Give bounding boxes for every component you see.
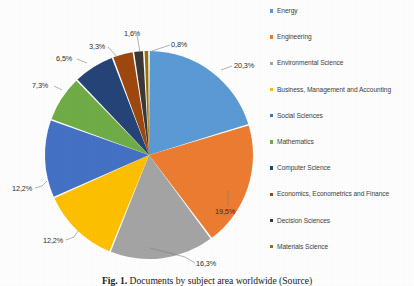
data-label-decision-sciences: 1,6% — [124, 29, 140, 38]
legend-item-label: Energy — [277, 7, 298, 15]
legend-swatch-icon — [270, 62, 273, 65]
leader-line-economics — [108, 47, 118, 58]
legend-item[interactable]: Environmental Science — [270, 58, 343, 68]
leader-line-materials-science — [152, 45, 170, 51]
data-label-economics: 3,3% — [89, 42, 105, 51]
legend-item[interactable]: Computer Science — [270, 163, 330, 173]
figure-caption: Fig. 1. Documents by subject area worldw… — [0, 275, 414, 286]
data-label-environmental-science: 16,3% — [196, 259, 216, 268]
chart-plot-area: 20,3% 19,5% 16,3% 12,2% 12,2% 7,3% 6,5% … — [0, 0, 266, 270]
legend-item-label: Decision Sciences — [277, 217, 330, 225]
data-label-mathematics: 7,3% — [32, 81, 48, 90]
legend-swatch-icon — [270, 88, 273, 91]
leader-line-computer-science — [77, 59, 87, 63]
leader-line-energy — [221, 66, 232, 70]
legend-item-label: Environmental Science — [277, 59, 343, 67]
data-label-business: 12,2% — [43, 236, 63, 245]
legend-item[interactable]: Social Sciences — [270, 111, 323, 121]
legend-swatch-icon — [270, 193, 273, 196]
data-label-computer-science: 6,5% — [56, 54, 72, 63]
legend-item-label: Economics, Econometrics and Finance — [277, 190, 389, 198]
legend-item-label: Business, Management and Accounting — [277, 86, 391, 94]
legend-swatch-icon — [270, 35, 273, 38]
legend-item[interactable]: Decision Sciences — [270, 216, 330, 226]
legend-swatch-icon — [270, 245, 273, 248]
legend-swatch-icon — [270, 140, 273, 143]
leader-line-social-sciences — [35, 181, 47, 188]
caption-text: Documents by subject area worldwide (Sou… — [130, 275, 313, 286]
caption-prefix: Fig. 1. — [102, 275, 127, 286]
leader-line-mathematics — [54, 86, 62, 90]
legend-item[interactable]: Business, Management and Accounting — [270, 85, 391, 95]
leader-line-business — [66, 231, 78, 240]
legend-swatch-icon — [270, 114, 273, 117]
data-label-materials-science: 0,8% — [171, 40, 187, 49]
legend-swatch-icon — [270, 9, 273, 12]
legend-item[interactable]: Engineering — [270, 32, 312, 42]
legend-item-label: Mathematics — [277, 138, 314, 146]
legend-item[interactable]: Energy — [270, 6, 298, 16]
legend-item[interactable]: Materials Science — [270, 242, 328, 252]
legend-item-label: Social Sciences — [277, 112, 323, 120]
pie-chart-svg — [0, 0, 266, 270]
data-label-engineering: 19,5% — [215, 207, 235, 216]
legend-item[interactable]: Mathematics — [270, 137, 314, 147]
legend-swatch-icon — [270, 219, 273, 222]
legend-swatch-icon — [270, 166, 273, 169]
data-label-energy: 20,3% — [234, 61, 254, 70]
legend-item[interactable]: Economics, Econometrics and Finance — [270, 189, 389, 199]
chart-legend: EnergyEngineeringEnvironmental ScienceBu… — [270, 6, 414, 268]
legend-item-label: Computer Science — [277, 164, 330, 172]
pie-slices-group — [45, 51, 253, 259]
legend-item-label: Engineering — [277, 33, 312, 41]
data-label-social-sciences: 12,2% — [12, 184, 32, 193]
figure-pie-chart: 20,3% 19,5% 16,3% 12,2% 12,2% 7,3% 6,5% … — [0, 0, 414, 286]
legend-item-label: Materials Science — [277, 243, 328, 251]
